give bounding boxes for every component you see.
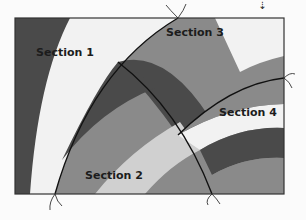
down-arrow-icon: ⇣ <box>258 0 266 11</box>
section-1-label: Section 1 <box>36 46 94 59</box>
quilt-diagram: Section 1 Section 2 Section 3 Section 4 … <box>0 0 306 220</box>
section-3-label: Section 3 <box>166 26 224 39</box>
thread-top <box>166 4 186 18</box>
thread-bottom-left <box>50 194 62 210</box>
thread-right <box>284 74 295 89</box>
section-4-label: Section 4 <box>219 106 277 119</box>
section-2-label: Section 2 <box>85 169 143 182</box>
thread-bottom-right <box>207 194 220 205</box>
